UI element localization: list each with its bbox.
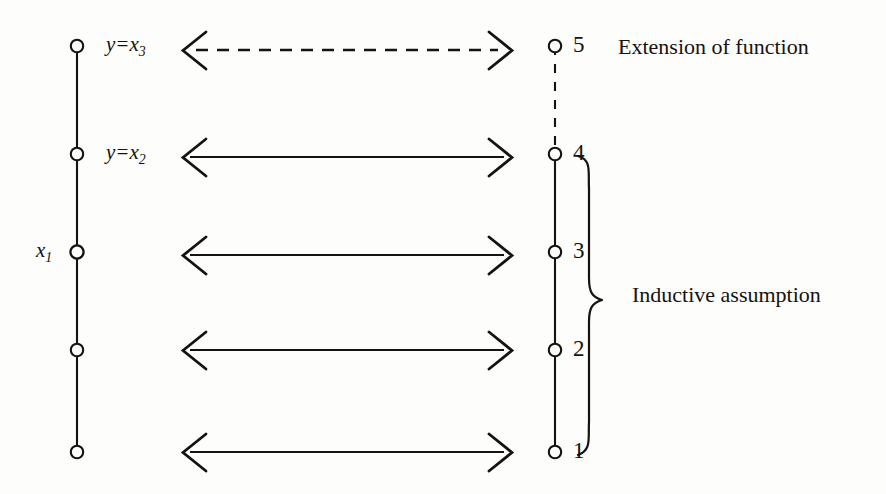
left-node-1 <box>71 446 83 458</box>
left-node-4-label: y=x2 <box>106 142 146 167</box>
arrow-extension-dashed <box>183 32 512 69</box>
right-node-1-label: 1 <box>573 439 585 462</box>
left-node-4-label-base: y=x <box>106 140 139 164</box>
left-node-4 <box>71 148 83 160</box>
left-node-3-label-sub: 1 <box>45 250 52 265</box>
brace-path <box>578 156 602 455</box>
arrow-level-2 <box>183 332 512 369</box>
arrow-level-3 <box>183 237 512 274</box>
left-node-5 <box>71 40 83 52</box>
right-node-1 <box>549 446 561 458</box>
right-node-5-label: 5 <box>573 33 585 56</box>
right-node-5 <box>549 40 561 52</box>
diagram-canvas <box>0 0 886 494</box>
left-node-3-label-base: x <box>36 238 45 262</box>
left-node-3 <box>70 245 83 258</box>
extension-of-function-label: Extension of function <box>618 36 809 58</box>
left-vertical-line <box>70 40 83 458</box>
induction-diagram: y=x3 y=x2 x1 5 4 3 2 1 Extension of func… <box>0 0 886 494</box>
arrow-level-4 <box>183 139 512 176</box>
left-node-5-label: y=x3 <box>106 34 146 59</box>
right-node-4-label: 4 <box>573 141 585 164</box>
arrow-level-1 <box>183 434 512 471</box>
inductive-assumption-brace <box>578 156 602 455</box>
right-node-4 <box>549 148 561 160</box>
right-node-2-label: 2 <box>573 337 585 360</box>
left-node-3-label: x1 <box>36 240 52 265</box>
inductive-assumption-label: Inductive assumption <box>632 284 821 306</box>
left-node-5-label-sub: 3 <box>139 44 146 59</box>
right-vertical-line <box>549 40 561 458</box>
left-node-4-label-sub: 2 <box>139 152 146 167</box>
right-node-2 <box>549 344 561 356</box>
left-node-5-label-base: y=x <box>106 32 139 56</box>
left-node-2 <box>71 344 83 356</box>
right-node-3-label: 3 <box>573 239 585 262</box>
right-node-3 <box>549 246 561 258</box>
